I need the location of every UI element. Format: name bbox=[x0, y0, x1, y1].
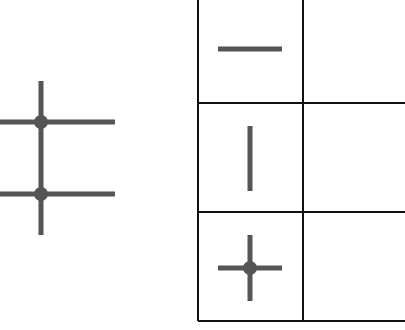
junction-dot-bottom bbox=[34, 187, 48, 201]
left-wiring-diagram bbox=[0, 81, 115, 235]
junction-dot-top bbox=[34, 115, 48, 129]
diagram-canvas bbox=[0, 0, 405, 330]
junction-cross-icon bbox=[218, 235, 282, 301]
